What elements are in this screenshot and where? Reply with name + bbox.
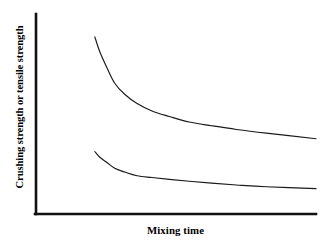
- chart-plot-area: [0, 0, 332, 244]
- y-axis-label: Crushing strength or tensile strength: [12, 14, 28, 200]
- x-axis-label: Mixing time: [35, 224, 316, 237]
- chart-container: Crushing strength or tensile strength Mi…: [0, 0, 332, 244]
- curve-tensile-strength: [95, 152, 316, 189]
- curve-crushing-strength: [95, 37, 316, 139]
